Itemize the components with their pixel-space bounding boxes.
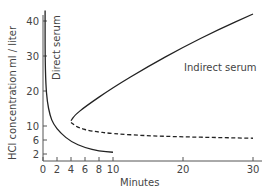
y-tick-label: 2 — [33, 149, 39, 160]
x-axis-label: Minutes — [120, 177, 159, 188]
y-tick-label: 30 — [26, 51, 39, 62]
x-tick-label: 2 — [54, 164, 60, 175]
y-ticks: 2610203040 — [26, 16, 47, 160]
chart: 2610203040 02468102030 HCl concentration… — [0, 0, 272, 195]
y-tick-label: 6 — [33, 135, 39, 146]
y-axis-unit: ml / liter — [7, 25, 18, 68]
series — [45, 11, 253, 153]
y-tick-label: 10 — [26, 121, 39, 132]
axes — [43, 15, 262, 161]
label-indirect-serum: Indirect serum — [184, 62, 257, 73]
y-tick-label: 40 — [26, 16, 39, 27]
x-tick-label: 20 — [177, 164, 190, 175]
y-axis-label: HCl concentration — [7, 70, 18, 160]
x-tick-label: 30 — [247, 164, 260, 175]
x-tick-label: 6 — [82, 164, 88, 175]
series-line — [71, 123, 253, 139]
y-tick-label: 20 — [26, 86, 39, 97]
x-tick-label: 10 — [107, 164, 120, 175]
x-tick-label: 4 — [68, 164, 74, 175]
x-tick-label: 0 — [40, 164, 46, 175]
label-direct-serum: Direct serum — [51, 15, 62, 80]
x-tick-label: 8 — [96, 164, 102, 175]
x-ticks: 02468102030 — [40, 157, 260, 175]
